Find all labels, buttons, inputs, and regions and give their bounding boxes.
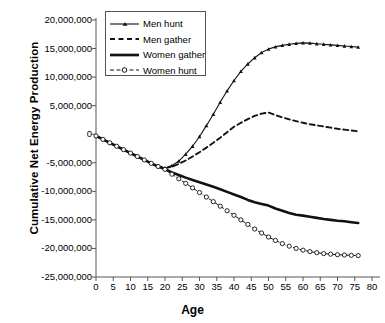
legend-label: Women gather <box>140 49 205 60</box>
series-marker <box>170 172 174 176</box>
series-marker <box>253 227 257 231</box>
series-marker <box>280 241 284 245</box>
series-marker <box>149 161 153 165</box>
series-line <box>96 113 358 169</box>
legend-label: Women hunt <box>140 65 197 76</box>
legend-swatch <box>109 49 140 61</box>
series-marker <box>156 164 160 168</box>
series-marker <box>342 253 346 257</box>
series-marker <box>246 222 250 226</box>
series-marker <box>329 252 333 256</box>
legend-marker <box>122 68 127 73</box>
series-marker <box>197 190 201 194</box>
series-marker <box>322 251 326 255</box>
series-marker <box>184 181 188 185</box>
series-marker <box>335 253 339 257</box>
legend-swatch <box>109 33 140 45</box>
legend-item[interactable]: Men hunt <box>109 16 205 31</box>
series-marker <box>273 238 277 242</box>
series-marker <box>115 144 119 148</box>
series-marker <box>94 134 98 138</box>
x-axis-tick-label: 80 <box>362 281 382 292</box>
series-marker <box>239 218 243 222</box>
series-marker <box>204 195 208 199</box>
series-marker <box>135 154 139 158</box>
series-marker <box>260 231 264 235</box>
legend-item[interactable]: Women gather <box>109 47 205 62</box>
series-marker <box>142 158 146 162</box>
series-marker <box>122 148 126 152</box>
legend-swatch <box>109 18 140 30</box>
series-marker <box>191 186 195 190</box>
series-men-gather <box>96 113 358 169</box>
series-marker <box>177 177 181 181</box>
series-marker <box>218 204 222 208</box>
series-marker <box>163 167 167 171</box>
series-marker <box>266 235 270 239</box>
series-marker <box>225 209 229 213</box>
legend-label: Men hunt <box>140 18 183 29</box>
series-women-hunt <box>94 134 360 258</box>
series-marker <box>108 141 112 145</box>
series-line <box>96 136 358 256</box>
series-marker <box>301 248 305 252</box>
series-marker <box>128 151 132 155</box>
series-marker <box>211 200 215 204</box>
series-marker <box>232 213 236 217</box>
legend-item[interactable]: Women hunt <box>109 63 205 78</box>
x-axis-title: Age <box>0 303 385 317</box>
series-marker <box>356 253 360 257</box>
series-marker <box>287 244 291 248</box>
legend-item[interactable]: Men gather <box>109 32 205 47</box>
chart-legend: Men huntMen gatherWomen gatherWomen hunt <box>105 11 206 76</box>
series-marker <box>315 251 319 255</box>
series-marker <box>101 137 105 141</box>
legend-swatch <box>109 64 140 76</box>
legend-label: Men gather <box>140 34 191 45</box>
series-marker <box>349 253 353 257</box>
series-marker <box>294 246 298 250</box>
series-marker <box>308 249 312 253</box>
chart-container: Cumulative Net Energy Production 20,000,… <box>0 0 385 323</box>
